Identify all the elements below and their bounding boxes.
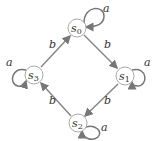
label-s2-s3: b	[49, 94, 56, 107]
node-s2: s2	[69, 114, 87, 132]
label-s3-s0: b	[49, 38, 56, 51]
label-loop-s1: a	[144, 56, 151, 69]
loop-s3	[12, 69, 26, 86]
label-loop-s2: a	[101, 121, 108, 134]
label-loop-s0: a	[103, 2, 110, 15]
edge-s0-s1	[84, 35, 117, 68]
label-s0-s1: b	[104, 38, 111, 51]
loop-s0	[84, 8, 104, 27]
node-s0: s0	[68, 19, 86, 37]
node-s1: s1	[116, 67, 134, 85]
label-loop-s3: a	[6, 56, 13, 69]
state-diagram: s0 s1 s2 s3 b b b b a a a a	[0, 0, 154, 141]
node-s3: s3	[25, 66, 43, 84]
edge-s1-s2	[85, 84, 118, 116]
label-s1-s2: b	[104, 94, 111, 107]
